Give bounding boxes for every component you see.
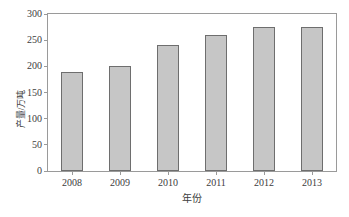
y-tick-label: 300: [27, 7, 42, 20]
x-tick-label: 2011: [206, 176, 226, 189]
x-tick-label: 2013: [302, 176, 322, 189]
x-tick-mark: [216, 171, 217, 175]
y-tick-label: 200: [27, 59, 42, 72]
x-tick-mark: [120, 171, 121, 175]
y-tick-label: 250: [27, 33, 42, 46]
x-tick-mark: [264, 171, 265, 175]
y-tick-label: 100: [27, 112, 42, 125]
bar: [253, 27, 275, 171]
bar: [205, 35, 227, 171]
bars-layer: [48, 14, 336, 171]
bar: [61, 72, 83, 171]
bar-chart-figure: 产量/万吨 050100150200250300 200820092010201…: [0, 0, 349, 217]
x-tick-label: 2010: [158, 176, 178, 189]
x-tick-mark: [72, 171, 73, 175]
x-tick-label: 2009: [110, 176, 130, 189]
x-tick-mark: [312, 171, 313, 175]
y-tick-label: 0: [37, 164, 42, 177]
bar: [109, 66, 131, 171]
x-tick-label: 2008: [62, 176, 82, 189]
x-tick-mark: [168, 171, 169, 175]
y-tick-label: 150: [27, 86, 42, 99]
y-tick-label: 50: [32, 138, 42, 151]
x-tick-label: 2012: [254, 176, 274, 189]
y-axis-title: 产量/万吨: [16, 89, 27, 128]
bar: [157, 45, 179, 171]
x-axis-title: 年份: [47, 192, 337, 205]
plot-area: 050100150200250300 200820092010201120122…: [47, 13, 337, 172]
bar: [301, 27, 323, 171]
